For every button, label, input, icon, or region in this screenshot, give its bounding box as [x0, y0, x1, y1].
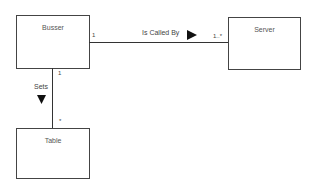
- multiplicity-server-side: 1..*: [213, 33, 222, 39]
- multiplicity-busser-sets-side: 1: [58, 70, 61, 76]
- association-line-sets: [52, 68, 53, 128]
- multiplicity-busser-side: 1: [92, 32, 95, 38]
- multiplicity-table-side: *: [59, 118, 61, 124]
- association-label-sets: Sets: [34, 83, 48, 90]
- class-busser-name: Busser: [17, 24, 89, 31]
- class-table: Table: [16, 128, 90, 179]
- class-server: Server: [228, 17, 301, 70]
- association-line-is-called-by: [89, 42, 228, 43]
- class-table-name: Table: [17, 137, 89, 144]
- association-label-is-called-by: Is Called By: [142, 29, 179, 36]
- class-server-name: Server: [229, 26, 300, 33]
- class-busser: Busser: [16, 15, 90, 69]
- direction-arrow-down-icon: [36, 94, 47, 105]
- direction-arrow-right-icon: [186, 29, 198, 41]
